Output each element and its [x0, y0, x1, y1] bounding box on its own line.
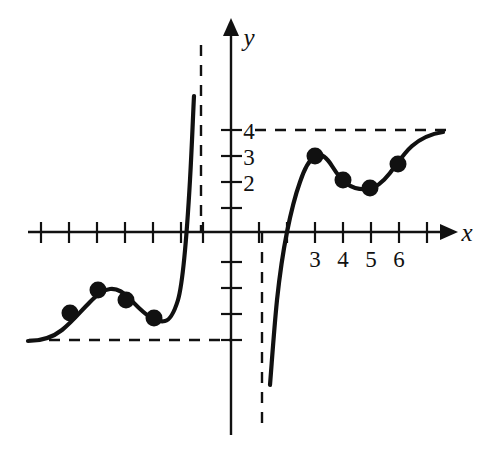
left-branch-curve: [28, 96, 194, 341]
graph-figure: 4 3 2 3 4 5 6 x y: [0, 0, 494, 459]
data-point-right-4: [335, 172, 352, 189]
x-tick-label-6: 6: [393, 247, 405, 272]
x-axis-arrow-icon: [440, 224, 458, 240]
axes-group: [28, 18, 458, 435]
x-tick-label-5: 5: [365, 247, 377, 272]
data-point-left-3: [118, 292, 135, 309]
y-tick-label-3: 3: [243, 145, 255, 170]
y-tick-label-2: 2: [243, 171, 255, 196]
tick-labels-group: 4 3 2 3 4 5 6: [243, 119, 405, 272]
x-tick-label-4: 4: [337, 247, 349, 272]
right-branch-curve: [270, 132, 443, 385]
data-point-left-1: [62, 305, 79, 322]
data-point-left-4: [146, 310, 163, 327]
y-tick-label-4: 4: [243, 119, 255, 144]
data-point-right-3: [307, 148, 324, 165]
curves-group: [28, 96, 443, 385]
graph-canvas: 4 3 2 3 4 5 6 x y: [0, 0, 494, 459]
marked-points-group: [62, 148, 407, 327]
data-point-right-5: [362, 180, 379, 197]
y-axis-arrow-icon: [223, 18, 239, 36]
data-point-right-6: [390, 156, 407, 173]
asymptotes-group: [29, 45, 446, 428]
x-tick-label-3: 3: [309, 247, 321, 272]
x-axis-label: x: [460, 219, 472, 246]
data-point-left-2: [90, 282, 107, 299]
y-axis-label: y: [240, 24, 255, 51]
